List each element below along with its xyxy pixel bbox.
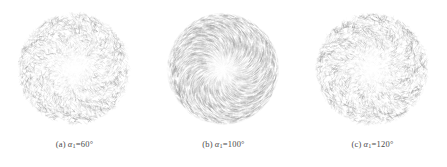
vector-field-plot-b — [149, 0, 298, 138]
vector-field-svg-c — [298, 0, 447, 138]
panel-tag-c: (c) — [352, 139, 362, 149]
figure-container: (a)α1=60° (b)α1=100° (c)α1=120° — [0, 0, 447, 167]
panel-unit-b: ° — [241, 139, 245, 149]
panel-c: (c)α1=120° — [298, 0, 447, 167]
panel-caption-c: (c)α1=120° — [298, 139, 447, 149]
vector-field-svg-b — [149, 0, 298, 138]
vector-field-svg-a — [0, 0, 149, 138]
panel-unit-a: ° — [90, 139, 94, 149]
panel-b: (b)α1=100° — [149, 0, 298, 167]
vector-field-plot-c — [298, 0, 447, 138]
panel-unit-c: ° — [390, 139, 394, 149]
panel-caption-b: (b)α1=100° — [149, 139, 298, 149]
panel-caption-a: (a)α1=60° — [0, 139, 149, 149]
panel-value-c: 120 — [377, 139, 390, 149]
panel-tag-b: (b) — [202, 139, 213, 149]
panel-value-b: 100 — [228, 139, 241, 149]
panel-tag-a: (a) — [56, 139, 66, 149]
panel-a: (a)α1=60° — [0, 0, 149, 167]
vector-field-plot-a — [0, 0, 149, 138]
panel-value-a: 60 — [81, 139, 90, 149]
